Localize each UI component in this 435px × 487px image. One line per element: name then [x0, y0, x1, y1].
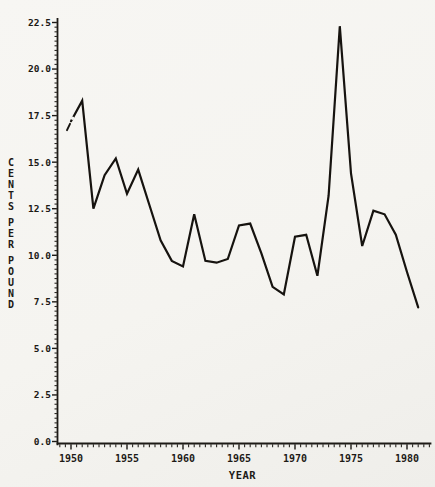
x-tick-label: 1975: [339, 453, 363, 464]
y-tick-label: 22.5: [28, 17, 51, 28]
y-axis-title: CENTSPERPOUND: [8, 157, 15, 310]
x-axis-tick-labels: 1950195519601965197019751980: [59, 453, 419, 464]
y-axis-title-letter: C: [8, 157, 14, 168]
y-axis-title-letter: T: [8, 190, 14, 201]
x-tick-label: 1960: [171, 453, 195, 464]
y-tick-label: 20.0: [28, 63, 51, 74]
y-tick-label: 5.0: [34, 343, 51, 354]
y-axis-title-letter: N: [8, 288, 14, 299]
y-axis-title-letter: P: [8, 217, 14, 228]
y-tick-label: 0.0: [34, 436, 51, 447]
x-axis-title: YEAR: [229, 469, 256, 481]
x-tick-label: 1950: [59, 453, 83, 464]
scan-artifact-gap: [71, 117, 74, 120]
data-series-line: [71, 26, 418, 307]
x-axis-ticks: [60, 444, 430, 449]
line-chart: 0.02.55.07.510.012.515.017.520.022.5 195…: [0, 0, 435, 487]
y-tick-label: 12.5: [28, 203, 51, 214]
y-axis-tick-labels: 0.02.55.07.510.012.515.017.520.022.5: [28, 17, 51, 447]
y-tick-label: 15.0: [28, 157, 51, 168]
y-axis-title-letter: U: [8, 277, 14, 288]
y-axis-title-letter: E: [8, 228, 14, 239]
scan-artifact-dash: [67, 124, 70, 130]
y-tick-label: 2.5: [34, 389, 51, 400]
y-axis-title-letter: N: [8, 179, 14, 190]
x-tick-label: 1980: [395, 453, 419, 464]
y-tick-label: 10.0: [28, 250, 51, 261]
x-tick-label: 1970: [283, 453, 307, 464]
y-tick-label: 17.5: [28, 110, 51, 121]
y-tick-label: 7.5: [34, 296, 51, 307]
scanned-chart-page: 0.02.55.07.510.012.515.017.520.022.5 195…: [0, 0, 435, 487]
y-axis-title-letter: R: [8, 239, 15, 250]
y-axis-title-letter: P: [8, 255, 14, 266]
y-axis-ticks: [52, 23, 57, 442]
plot-area: [67, 26, 418, 307]
y-axis-title-letter: E: [8, 168, 14, 179]
y-axis-title-letter: D: [8, 299, 14, 310]
y-axis-title-letter: O: [8, 266, 14, 277]
y-axis-title-letter: S: [8, 201, 14, 212]
x-tick-label: 1965: [227, 453, 251, 464]
x-tick-label: 1955: [115, 453, 139, 464]
